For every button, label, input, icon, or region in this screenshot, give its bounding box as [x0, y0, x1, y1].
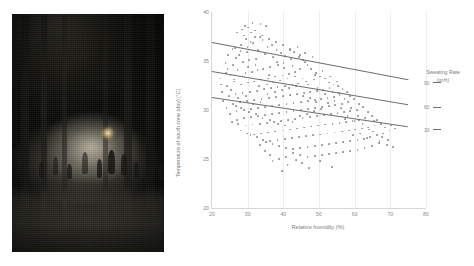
- data-point: [262, 40, 264, 42]
- data-point: [344, 98, 346, 100]
- data-point: [357, 139, 359, 141]
- data-point: [315, 101, 317, 103]
- data-point: [342, 151, 344, 153]
- data-point: [330, 76, 332, 78]
- data-point: [255, 58, 257, 60]
- data-point: [269, 154, 271, 156]
- data-point: [394, 128, 396, 130]
- data-point: [270, 140, 272, 142]
- data-point: [265, 25, 267, 27]
- data-point: [337, 112, 339, 114]
- data-point: [315, 74, 317, 76]
- data-point: [320, 98, 322, 100]
- data-point: [270, 119, 272, 121]
- data-point: [275, 131, 277, 133]
- regression-line-30: [212, 97, 408, 127]
- data-point: [347, 101, 349, 103]
- data-point: [244, 35, 246, 37]
- data-point: [247, 27, 249, 29]
- data-point: [272, 56, 274, 58]
- data-point: [325, 93, 327, 95]
- data-point: [335, 152, 337, 154]
- data-point: [349, 140, 351, 142]
- data-point: [237, 97, 239, 99]
- data-point: [295, 118, 297, 120]
- data-point: [235, 105, 237, 107]
- promenade-photo: [12, 14, 164, 252]
- data-point: [349, 150, 351, 152]
- data-point: [271, 44, 273, 46]
- data-point: [389, 130, 391, 132]
- data-point: [275, 76, 277, 78]
- data-point: [328, 153, 330, 155]
- data-point: [310, 68, 312, 70]
- x-tick-label-60: 60: [352, 211, 358, 217]
- data-point: [256, 90, 258, 92]
- legend-value-30: 30: [424, 127, 430, 133]
- data-point: [248, 111, 250, 113]
- data-point: [305, 81, 307, 83]
- data-point: [302, 95, 304, 97]
- data-point: [294, 76, 296, 78]
- data-point: [299, 54, 301, 56]
- data-point: [231, 121, 233, 123]
- data-point: [268, 74, 270, 76]
- data-point: [357, 149, 359, 151]
- data-point: [309, 116, 311, 118]
- data-point: [296, 128, 298, 130]
- data-point: [372, 131, 374, 133]
- data-point: [289, 94, 291, 96]
- legend-swatch-90: [433, 82, 441, 83]
- data-point: [251, 71, 253, 73]
- data-point: [254, 37, 256, 39]
- data-point: [278, 158, 280, 160]
- data-point: [243, 109, 245, 111]
- data-point: [332, 123, 334, 125]
- data-point: [281, 89, 283, 91]
- data-point: [226, 107, 228, 109]
- gridline-x-30: [248, 12, 249, 208]
- data-point: [325, 124, 327, 126]
- data-point: [321, 154, 323, 156]
- data-point: [287, 78, 289, 80]
- data-point: [304, 52, 306, 54]
- data-point: [310, 126, 312, 128]
- data-point: [337, 86, 339, 88]
- data-point: [286, 103, 288, 105]
- data-point: [343, 111, 345, 113]
- data-point: [220, 84, 222, 86]
- data-point: [302, 117, 304, 119]
- legend: Sweating Rate (gr/h) 906030: [412, 68, 474, 84]
- data-point: [243, 117, 245, 119]
- data-point: [302, 78, 304, 80]
- data-point: [271, 113, 273, 115]
- data-point: [328, 143, 330, 145]
- data-point: [339, 122, 341, 124]
- data-point: [277, 87, 279, 89]
- data-point: [276, 49, 278, 51]
- data-point: [354, 129, 356, 131]
- data-point: [382, 133, 384, 135]
- data-point: [317, 125, 319, 127]
- legend-value-60: 60: [424, 104, 430, 110]
- data-point: [296, 93, 298, 95]
- data-point: [366, 138, 368, 140]
- data-point: [276, 61, 278, 63]
- data-point: [268, 39, 270, 41]
- data-point: [263, 89, 265, 91]
- data-point: [374, 125, 376, 127]
- data-point: [320, 134, 322, 136]
- data-point: [306, 113, 308, 115]
- data-point: [305, 61, 307, 63]
- y-tick-label-30: 30: [203, 107, 209, 113]
- data-point: [312, 56, 314, 58]
- data-point: [232, 48, 234, 50]
- data-point: [307, 146, 309, 148]
- data-point: [316, 115, 318, 117]
- data-point: [279, 104, 281, 106]
- data-point: [266, 122, 268, 124]
- data-point: [240, 84, 242, 86]
- data-point: [260, 23, 262, 25]
- data-point: [250, 108, 252, 110]
- data-point: [221, 91, 223, 93]
